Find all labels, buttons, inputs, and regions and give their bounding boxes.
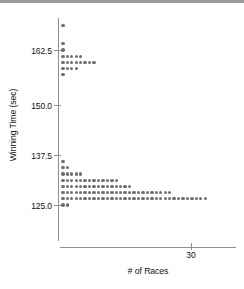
data-point [79,185,82,188]
data-point [61,160,64,163]
data-point [115,191,118,194]
data-point [101,191,104,194]
data-point [70,67,73,70]
data-point [115,179,118,182]
data-point [70,191,73,194]
data-point [61,24,64,27]
data-point [132,191,135,194]
data-point [150,197,153,200]
data-point [97,179,100,182]
data-point [181,197,184,200]
data-point [146,197,149,200]
data-point [66,172,69,175]
data-point [75,191,78,194]
data-point [83,61,86,64]
y-axis-line [58,18,59,241]
data-point [61,185,64,188]
y-tick-mark [54,205,61,206]
data-point [128,191,131,194]
data-point [155,197,158,200]
data-point [92,61,95,64]
data-point [168,197,171,200]
data-point [61,61,64,64]
data-point [141,191,144,194]
data-point [61,203,64,206]
data-point [66,191,69,194]
x-axis-line [60,247,236,248]
y-tick-label-150-0: 150.0 [16,101,52,111]
data-point [83,191,86,194]
data-point [106,191,109,194]
data-point [61,166,64,169]
data-point [75,67,78,70]
data-point [61,73,64,76]
data-point [92,191,95,194]
data-point [70,55,73,58]
data-point [155,191,158,194]
data-point [75,179,78,182]
data-point [79,61,82,64]
chart-figure: Winning Time (sec) 162.5 150.0 137.5 125… [0,0,244,289]
data-point [119,185,122,188]
data-point [88,179,91,182]
data-point [132,197,135,200]
data-point [123,191,126,194]
data-point [61,179,64,182]
data-point [106,185,109,188]
y-tick-labels: 162.5 150.0 137.5 125.0 [12,0,52,289]
data-point [119,191,122,194]
data-point [66,61,69,64]
data-point [168,191,171,194]
data-point [123,185,126,188]
data-point [70,172,73,175]
data-point [79,172,82,175]
data-point [101,197,104,200]
data-point [88,191,91,194]
y-tick-mark [54,50,61,51]
data-point [61,197,64,200]
data-point [101,185,104,188]
data-point [66,185,69,188]
data-point [186,197,189,200]
data-point [101,179,104,182]
x-tick-label-30: 30 [186,250,195,260]
data-point [92,185,95,188]
data-point [88,197,91,200]
data-point [92,197,95,200]
data-point [92,179,95,182]
data-point [146,191,149,194]
data-point [79,179,82,182]
data-point [75,172,78,175]
data-point [150,191,153,194]
data-point [159,197,162,200]
data-point [128,197,131,200]
y-tick-mark [54,105,61,106]
data-point [66,179,69,182]
data-point [79,191,82,194]
data-point [137,197,140,200]
data-point [106,197,109,200]
data-point [199,197,202,200]
data-point [123,197,126,200]
data-point [97,197,100,200]
plot-area: Winning Time (sec) 162.5 150.0 137.5 125… [0,0,244,289]
data-point [164,197,167,200]
data-point [110,197,113,200]
data-point [61,191,64,194]
page-bottom-text [6,275,238,289]
data-point [61,67,64,70]
data-point [79,55,82,58]
data-point [79,197,82,200]
data-point [110,191,113,194]
data-point [106,179,109,182]
data-point [172,197,175,200]
y-tick-label-137-5: 137.5 [16,151,52,161]
data-point [164,191,167,194]
data-point [141,197,144,200]
data-point [61,55,64,58]
data-point [110,185,113,188]
data-point [70,179,73,182]
data-point [83,197,86,200]
x-tick-mark [191,243,192,250]
data-point [110,179,113,182]
